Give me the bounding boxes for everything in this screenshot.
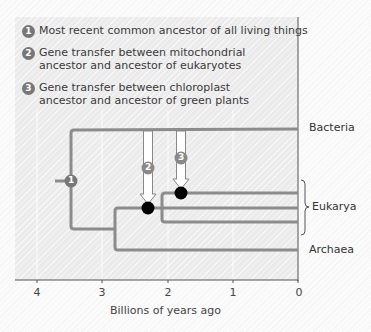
node-1-number: 1 — [68, 175, 74, 185]
leaf-label-archaea: Archaea — [309, 243, 354, 256]
tick-label-0: 0 — [289, 286, 309, 299]
tick-label-4: 4 — [27, 286, 47, 299]
gene-transfer-node-3 — [175, 187, 188, 200]
arrow-2-number: 2 — [145, 162, 151, 172]
eukarya-brace — [301, 180, 309, 235]
phylogenetic-tree — [0, 0, 371, 332]
tick-label-2: 2 — [158, 286, 178, 299]
leaf-label-bacteria: Bacteria — [309, 121, 355, 134]
gridlines — [37, 110, 233, 280]
x-axis-title: Billions of years ago — [110, 304, 221, 317]
tick-label-1: 1 — [223, 286, 243, 299]
gene-transfer-node-2 — [142, 202, 155, 215]
arrow-3-number: 3 — [178, 152, 184, 162]
leaf-label-eukarya: Eukarya — [312, 200, 357, 213]
tick-label-3: 3 — [92, 286, 112, 299]
